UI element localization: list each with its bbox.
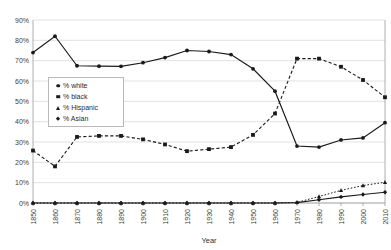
x-axis-tick-label: 1970 xyxy=(294,209,301,225)
data-point-marker xyxy=(141,137,145,141)
legend-label-white: % white xyxy=(63,80,88,91)
data-point-marker xyxy=(119,134,123,138)
data-point-marker xyxy=(75,64,79,68)
x-axis-tick-label: 1920 xyxy=(184,209,191,225)
x-axis-tick-label: 1960 xyxy=(272,209,279,225)
legend-label-black: % black xyxy=(63,91,88,102)
data-point-marker xyxy=(141,61,145,65)
x-axis-title: Year xyxy=(201,236,217,245)
x-axis-tick-label: 1870 xyxy=(74,209,81,225)
data-point-marker xyxy=(207,50,211,54)
x-axis-tick-label: 1950 xyxy=(250,209,257,225)
legend-item-hispanic: % Hispanic xyxy=(49,102,123,113)
x-axis-tick-label: 1910 xyxy=(162,209,169,225)
data-point-marker xyxy=(295,200,299,204)
x-axis-tick-label: 1860 xyxy=(52,209,59,225)
y-axis-tick-label: 0% xyxy=(19,200,29,207)
y-axis-tick-label: 10% xyxy=(15,179,29,186)
legend-marker-square-icon xyxy=(54,93,62,101)
x-axis-tick-label: 1940 xyxy=(228,209,235,225)
data-point-marker xyxy=(31,149,35,153)
legend-marker-diamond-icon xyxy=(54,115,62,123)
x-axis-tick-label: 1980 xyxy=(316,209,323,225)
data-point-marker xyxy=(229,145,233,149)
x-axis-tick-label: 1850 xyxy=(30,209,37,225)
legend-item-black: % black xyxy=(49,91,123,102)
series-line-hispanic xyxy=(33,182,385,203)
chart-container: 0%10%20%30%40%50%60%70%80%90%18501860187… xyxy=(0,0,391,250)
data-point-marker xyxy=(361,192,365,196)
data-point-marker xyxy=(339,138,343,142)
data-point-marker xyxy=(163,143,167,147)
data-point-marker xyxy=(317,198,321,202)
legend-label-asian: % Asian xyxy=(63,113,88,124)
x-axis-tick-label: 2010 xyxy=(382,209,389,225)
data-point-marker xyxy=(273,112,277,116)
data-point-marker xyxy=(361,78,365,82)
data-point-marker xyxy=(383,190,387,194)
data-point-marker xyxy=(383,180,387,184)
data-point-marker xyxy=(383,121,387,125)
x-axis-tick-label: 1930 xyxy=(206,209,213,225)
data-point-marker xyxy=(97,134,101,138)
y-axis-tick-label: 30% xyxy=(15,139,29,146)
data-point-marker xyxy=(339,65,343,69)
data-point-marker xyxy=(31,51,35,55)
data-point-marker xyxy=(339,195,343,199)
y-axis-tick-label: 90% xyxy=(15,17,29,24)
data-point-marker xyxy=(75,135,79,139)
data-point-marker xyxy=(53,34,57,38)
data-point-marker xyxy=(251,133,255,137)
legend-item-asian: % Asian xyxy=(49,113,123,124)
chart-legend: % white % black % Hispanic % Asian xyxy=(48,77,124,127)
data-point-marker xyxy=(119,64,123,68)
y-axis-tick-label: 80% xyxy=(15,37,29,44)
data-point-marker xyxy=(229,53,233,57)
x-axis-tick-label: 1890 xyxy=(118,209,125,225)
data-point-marker xyxy=(317,145,321,149)
legend-item-white: % white xyxy=(49,80,123,91)
data-point-marker xyxy=(317,57,321,61)
data-point-marker xyxy=(273,89,277,93)
y-axis-tick-label: 50% xyxy=(15,98,29,105)
y-axis-tick-label: 40% xyxy=(15,118,29,125)
y-axis-tick-label: 20% xyxy=(15,159,29,166)
y-axis-tick-label: 70% xyxy=(15,57,29,64)
data-point-marker xyxy=(339,188,343,192)
data-point-marker xyxy=(207,147,211,151)
data-point-marker xyxy=(163,56,167,60)
y-axis-tick-label: 60% xyxy=(15,78,29,85)
legend-marker-triangle-icon xyxy=(54,104,62,112)
legend-label-hispanic: % Hispanic xyxy=(63,102,98,113)
x-axis-tick-label: 1990 xyxy=(338,209,345,225)
data-point-marker xyxy=(185,49,189,53)
x-axis-tick-label: 1900 xyxy=(140,209,147,225)
x-axis-tick-label: 1880 xyxy=(96,209,103,225)
x-axis-tick-label: 2000 xyxy=(360,209,367,225)
data-point-marker xyxy=(383,95,387,99)
data-point-marker xyxy=(97,64,101,68)
data-point-marker xyxy=(251,67,255,71)
data-point-marker xyxy=(295,144,299,148)
data-point-marker xyxy=(361,136,365,140)
data-point-marker xyxy=(185,149,189,153)
legend-marker-circle-icon xyxy=(54,82,62,90)
data-point-marker xyxy=(53,165,57,169)
data-point-marker xyxy=(295,57,299,61)
